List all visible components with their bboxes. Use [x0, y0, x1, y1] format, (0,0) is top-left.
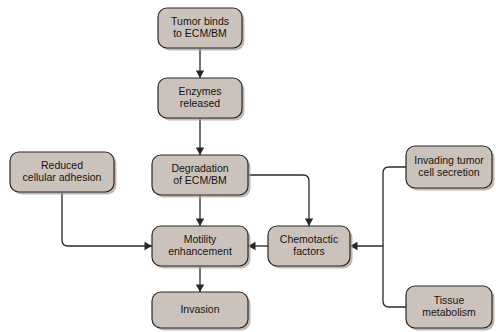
connector-adhesion-to-motility	[62, 192, 152, 250]
node-label-line: Motility	[184, 233, 217, 245]
node-enzymes-released: Enzymesreleased	[158, 78, 245, 121]
flowchart-canvas: Tumor bindsto ECM/BMEnzymesreleasedDegra…	[0, 0, 496, 332]
node-degradation: Degradationof ECM/BM	[152, 155, 251, 198]
connector-invading-tumor-to-chemotactic	[350, 167, 406, 250]
connector-tumor-to-enzymes	[196, 48, 204, 78]
node-chemotactic: Chemotacticfactors	[268, 226, 353, 269]
node-label-line: cell secretion	[418, 166, 479, 178]
node-label-line: Invading tumor	[414, 154, 484, 166]
node-invasion: Invasion	[152, 292, 251, 331]
node-label-line: Tumor binds	[171, 15, 229, 27]
connector-motility-to-invasion	[196, 266, 204, 292]
connector-tissue-metabolism-to-chemotactic	[383, 246, 406, 307]
node-label-line: metabolism	[422, 306, 476, 318]
node-label-line: Invasion	[180, 303, 219, 315]
connector-degradation-to-motility	[196, 195, 204, 226]
node-label-line: to ECM/BM	[173, 27, 227, 39]
node-label-line: factors	[293, 245, 325, 257]
node-reduced-adhesion: Reducedcellular adhesion	[10, 152, 117, 195]
node-layer: Tumor bindsto ECM/BMEnzymesreleasedDegra…	[10, 8, 495, 331]
node-label-line: Tissue	[434, 294, 465, 306]
node-label-line: enhancement	[168, 245, 232, 257]
connector-chemotactic-to-motility	[248, 242, 268, 250]
connector-enzymes-to-degradation	[196, 118, 204, 155]
node-tissue-metabolism: Tissuemetabolism	[406, 286, 495, 331]
node-label-line: cellular adhesion	[23, 171, 102, 183]
node-tumor-binds: Tumor bindsto ECM/BM	[158, 8, 245, 51]
node-label-line: Chemotactic	[280, 233, 338, 245]
node-label-line: Enzymes	[178, 85, 221, 97]
node-label-line: Degradation	[171, 162, 228, 174]
node-label-line: released	[180, 97, 220, 109]
node-label-line: Reduced	[41, 159, 83, 171]
node-motility: Motilityenhancement	[152, 226, 251, 269]
node-invading-tumor: Invading tumorcell secretion	[406, 146, 495, 191]
connector-degradation-to-chemotactic	[248, 175, 313, 226]
node-label-line: of ECM/BM	[173, 174, 227, 186]
tumor-invasion-flowchart: Tumor bindsto ECM/BMEnzymesreleasedDegra…	[0, 0, 496, 332]
